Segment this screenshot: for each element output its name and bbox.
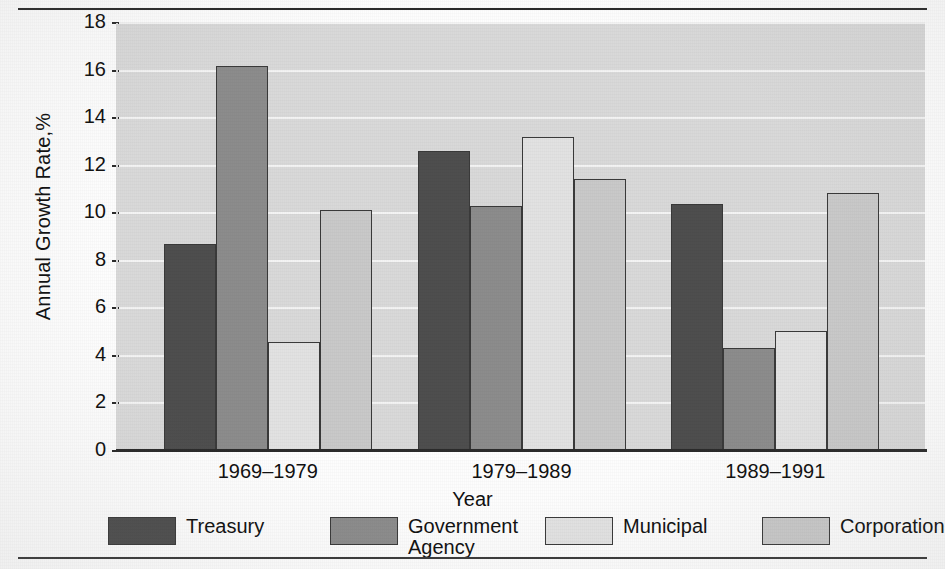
bottom-rule <box>18 557 927 559</box>
legend-swatch <box>108 517 176 545</box>
bar <box>470 206 522 451</box>
bar <box>418 151 470 451</box>
x-axis-line <box>116 449 927 452</box>
legend-label: Municipal <box>623 516 707 537</box>
x-axis-title: Year <box>0 488 945 511</box>
bar <box>775 331 827 451</box>
legend-label: Government Agency <box>408 516 518 558</box>
x-axis-group-label: 1979–1989 <box>418 460 626 483</box>
y-axis-tick-label: 4 <box>62 343 106 366</box>
y-axis-title: Annual Growth Rate,% <box>32 82 55 352</box>
legend-label: Treasury <box>186 516 264 537</box>
legend-label: Corporation <box>840 516 945 537</box>
legend-swatch <box>762 517 830 545</box>
y-axis-tick-label: 8 <box>62 248 106 271</box>
gridline <box>118 22 925 24</box>
bar <box>164 244 216 451</box>
y-axis-tick-label: 6 <box>62 295 106 318</box>
y-axis-line <box>116 23 118 451</box>
legend-item: Municipal <box>545 516 707 545</box>
bar <box>522 137 574 451</box>
y-axis-tick-label: 0 <box>62 438 106 461</box>
legend-item: Corporation <box>762 516 945 545</box>
top-rule <box>18 8 927 10</box>
bar <box>320 210 372 451</box>
legend-swatch <box>545 517 613 545</box>
y-axis-tick-label: 18 <box>62 10 106 33</box>
y-axis-tick-label: 2 <box>62 390 106 413</box>
legend-item: Government Agency <box>330 516 518 558</box>
y-axis-tick-label: 14 <box>62 105 106 128</box>
legend-item: Treasury <box>108 516 264 545</box>
bar <box>671 204 723 451</box>
x-axis-group-label: 1989–1991 <box>671 460 879 483</box>
y-axis-tick-label: 16 <box>62 58 106 81</box>
bar-chart-figure: Annual Growth Rate,% Year TreasuryGovern… <box>0 0 945 569</box>
y-axis-tick-label: 10 <box>62 200 106 223</box>
bar <box>216 66 268 451</box>
bar <box>723 348 775 451</box>
legend-swatch <box>330 517 398 545</box>
bar <box>268 342 320 451</box>
bar <box>827 193 879 451</box>
plot-area <box>118 23 925 451</box>
y-axis-tick-label: 12 <box>62 153 106 176</box>
bar <box>574 179 626 451</box>
x-axis-group-label: 1969–1979 <box>164 460 372 483</box>
